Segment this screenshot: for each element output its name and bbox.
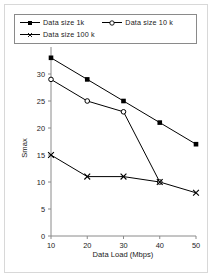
- data-point-square: [194, 142, 199, 147]
- data-point-square: [121, 99, 126, 104]
- data-series-markers: [48, 56, 199, 196]
- data-series-lines: [51, 58, 196, 193]
- x-axis-title: Data Load (Mbps): [93, 250, 154, 259]
- y-axis-title: Smax: [20, 138, 29, 158]
- x-axis-ticks: 1020304050: [47, 236, 200, 250]
- data-point-cross: [193, 190, 199, 196]
- y-tick-label: 30: [37, 70, 45, 79]
- data-point-circle: [121, 110, 126, 115]
- data-point-square: [49, 56, 54, 61]
- data-point-square: [157, 120, 162, 125]
- data-point-circle: [49, 77, 54, 82]
- y-tick-label: 25: [37, 97, 45, 106]
- y-tick-label: 15: [37, 151, 45, 160]
- y-tick-label: 0: [41, 232, 45, 241]
- y-axis-ticks: 051015202530: [37, 70, 51, 241]
- plot-area: 051015202530 1020304050 Data Load (Mbps)…: [0, 0, 212, 277]
- chart-figure: Data size 1k Data size 10 k: [0, 0, 212, 277]
- x-tick-label: 50: [192, 241, 200, 250]
- y-tick-label: 5: [41, 205, 45, 214]
- series-line: [51, 79, 160, 182]
- series-line: [51, 155, 196, 193]
- y-tick-label: 10: [37, 178, 45, 187]
- x-tick-label: 30: [119, 241, 127, 250]
- x-tick-label: 20: [83, 241, 91, 250]
- x-tick-label: 40: [156, 241, 164, 250]
- y-tick-label: 20: [37, 124, 45, 133]
- data-point-circle: [85, 99, 90, 104]
- x-tick-label: 10: [47, 241, 55, 250]
- data-point-square: [85, 77, 90, 82]
